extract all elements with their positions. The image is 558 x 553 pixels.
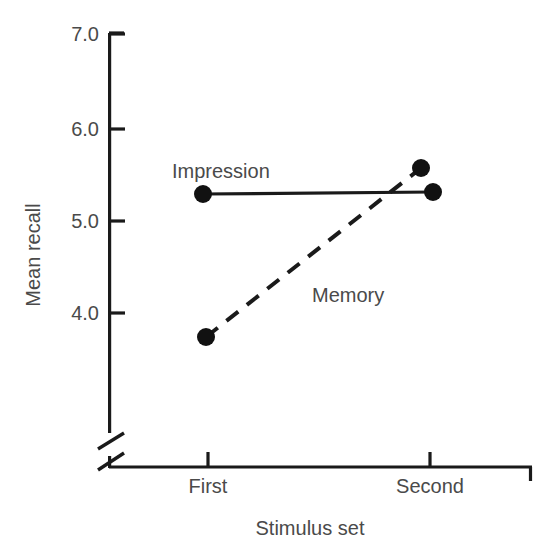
memory-point-first [197, 328, 215, 346]
impression-point-second [424, 183, 442, 201]
impression-point-first [194, 185, 212, 203]
x-tick-label-first: First [189, 475, 228, 497]
x-axis-title: Stimulus set [256, 517, 365, 539]
impression-series-label: Impression [172, 160, 270, 182]
memory-point-second [412, 159, 430, 177]
memory-series-label: Memory [312, 284, 384, 306]
series-memory: Memory [197, 159, 430, 346]
y-axis: 7.0 6.0 5.0 4.0 Mean recall [22, 23, 125, 470]
y-tick-label-4: 4.0 [71, 302, 99, 324]
x-tick-label-second: Second [396, 475, 464, 497]
line-chart: 7.0 6.0 5.0 4.0 Mean recall First Second… [0, 0, 558, 553]
y-tick-label-6: 6.0 [71, 118, 99, 140]
y-tick-label-7: 7.0 [71, 23, 99, 45]
x-axis: First Second Stimulus set [109, 452, 532, 539]
impression-line [203, 192, 433, 194]
y-tick-label-5: 5.0 [71, 210, 99, 232]
series-impression: Impression [172, 160, 442, 203]
figure-container: 7.0 6.0 5.0 4.0 Mean recall First Second… [0, 0, 558, 553]
y-axis-title: Mean recall [22, 203, 44, 306]
